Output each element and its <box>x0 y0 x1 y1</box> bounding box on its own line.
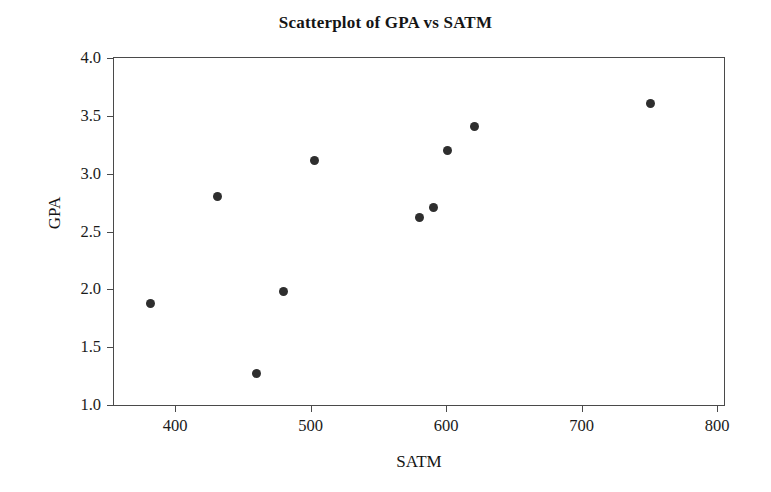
data-point <box>443 146 452 155</box>
y-axis-tick <box>107 58 114 59</box>
data-points-layer <box>114 58 724 405</box>
y-axis-tick-label: 4.0 <box>80 48 101 68</box>
data-point <box>213 192 222 201</box>
y-axis-title: GPA <box>45 153 65 273</box>
plot-area: 4.03.53.02.52.01.51.0400500600700800 <box>113 57 725 406</box>
y-axis-tick-label: 2.0 <box>80 279 101 299</box>
y-axis-tick <box>107 174 114 175</box>
x-axis-tick <box>175 405 176 412</box>
y-axis-tick-label: 2.5 <box>80 222 101 242</box>
scatterplot-figure: Scatterplot of GPA vs SATM 4.03.53.02.52… <box>0 0 771 492</box>
x-axis-tick <box>311 405 312 412</box>
x-axis-tick-label: 800 <box>705 416 730 436</box>
x-axis-tick-label: 700 <box>569 416 594 436</box>
data-point <box>646 99 655 108</box>
y-axis-tick <box>107 289 114 290</box>
data-point <box>415 213 424 222</box>
x-axis-tick-label: 400 <box>163 416 188 436</box>
x-axis-tick-label: 500 <box>298 416 323 436</box>
x-axis-tick <box>717 405 718 412</box>
y-axis-tick-label: 3.5 <box>80 106 101 126</box>
y-axis-tick-label: 1.0 <box>80 395 101 415</box>
data-point <box>470 122 479 131</box>
x-axis-tick-label: 600 <box>434 416 459 436</box>
y-axis-tick <box>107 116 114 117</box>
chart-title: Scatterplot of GPA vs SATM <box>0 13 771 33</box>
data-point <box>279 287 288 296</box>
y-axis-tick <box>107 347 114 348</box>
data-point <box>429 203 438 212</box>
y-axis-tick <box>107 232 114 233</box>
x-axis-tick <box>446 405 447 412</box>
data-point <box>252 369 261 378</box>
y-axis-tick <box>107 405 114 406</box>
y-axis-tick-label: 1.5 <box>80 337 101 357</box>
data-point <box>310 156 319 165</box>
x-axis-tick <box>582 405 583 412</box>
x-axis-title: SATM <box>113 452 725 472</box>
y-axis-tick-label: 3.0 <box>80 164 101 184</box>
data-point <box>146 299 155 308</box>
